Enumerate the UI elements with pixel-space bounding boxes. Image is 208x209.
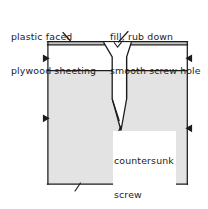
- label-plywood-sheeting-line1: plastic faced: [11, 31, 96, 42]
- label-countersunk-screw-line2: screw: [114, 189, 174, 200]
- label-countersunk-screw: countersunk screw: [113, 131, 176, 209]
- label-countersunk-screw-line1: countersunk: [114, 155, 174, 166]
- label-fill-screw-hole-line2: smooth screw hole: [110, 65, 201, 76]
- label-fill-screw-hole-line1: fill, rub down: [110, 31, 201, 42]
- label-plywood-sheeting: plastic faced plywood sheeting: [11, 8, 96, 99]
- label-fill-screw-hole: fill, rub down smooth screw hole: [110, 8, 201, 99]
- label-plywood-sheeting-line2: plywood sheeting: [11, 65, 96, 76]
- diagram-canvas: plastic faced plywood sheeting fill, rub…: [0, 0, 208, 209]
- label-framing: framing: [66, 190, 104, 209]
